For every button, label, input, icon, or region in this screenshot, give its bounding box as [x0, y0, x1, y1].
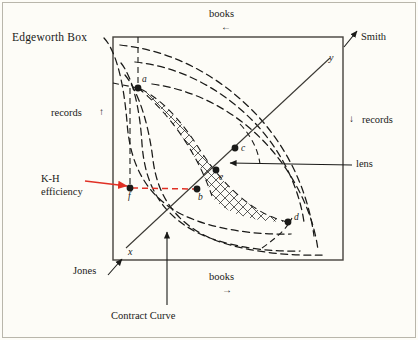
corner-label-jones: Jones: [73, 265, 96, 276]
axis-label-records-left: records: [51, 107, 82, 118]
annotation-kh-efficiency-line2: efficiency: [41, 186, 83, 199]
point-c-dot: [232, 145, 239, 152]
point-a-dot: [135, 85, 142, 92]
smith-curve-2: [120, 45, 314, 236]
point-label-a: a: [142, 74, 147, 84]
jones-curve-2: [104, 38, 291, 234]
point-label-f: f: [128, 191, 131, 201]
lens-leader-line: [230, 163, 352, 165]
hint-a-horizontal: [113, 83, 138, 88]
point-label-e: e: [219, 172, 223, 182]
corner-label-smith: Smith: [361, 31, 386, 42]
jones-curve-1: [121, 63, 300, 251]
edgeworth-box-rect: [113, 37, 343, 260]
axis-label-books-top: books: [209, 8, 234, 19]
edgeworth-box-figure: Edgeworth Box books ← books → records ↑ …: [0, 0, 418, 340]
labeled-points-group: [127, 85, 292, 226]
smith-pointer-arrow: [344, 31, 357, 47]
annotation-contract-curve: Contract Curve: [111, 310, 175, 321]
point-label-b: b: [198, 192, 203, 202]
kh-f-to-b-segment: [132, 188, 195, 189]
contract-curve-label-x: x: [128, 246, 132, 257]
annotation-lens: lens: [356, 158, 373, 169]
axis-arrow-records-left: ↑: [99, 106, 104, 117]
figure-title: Edgeworth Box: [12, 31, 87, 43]
axis-arrow-books-top: ←: [221, 21, 231, 32]
diagram-canvas: [0, 0, 418, 340]
kh-efficiency-arrow: [85, 181, 127, 186]
axis-label-records-right: records: [362, 114, 393, 125]
point-d-dot: [285, 219, 292, 226]
point-label-d: d: [294, 212, 299, 222]
jones-pointer-arrow: [108, 259, 122, 275]
annotation-kh-efficiency-line1: K-H: [41, 173, 60, 186]
contract-curve-label-y: y: [329, 52, 333, 63]
axis-arrow-records-right: ↓: [349, 113, 354, 124]
point-label-c: c: [241, 143, 245, 153]
axis-label-books-bottom: books: [209, 271, 234, 282]
contract-curve-line: [126, 58, 330, 248]
axis-arrow-books-bottom: →: [222, 284, 232, 295]
